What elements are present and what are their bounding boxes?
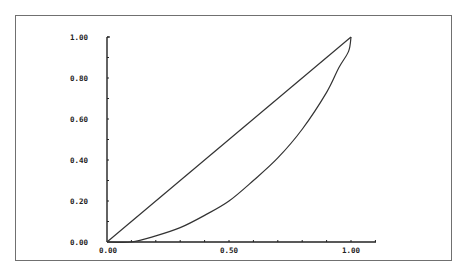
y-tick-label: 1.00 [70,33,89,42]
data-series [107,37,351,242]
y-tick-label: 0.20 [70,197,89,206]
y-tick-label: 0.80 [70,74,89,83]
x-tick-label: 0.50 [220,246,239,255]
x-axis-labels: 0.00 0.50 1.00 [99,246,361,255]
x-tick-label: 0.00 [99,246,118,255]
y-tick-label: 0.60 [70,115,89,124]
y-tick-label: 0.00 [70,238,89,247]
chart-plot: 0.00 0.20 0.40 0.60 0.80 1.00 0.00 0.50 … [0,0,466,275]
y-axis-labels: 0.00 0.20 0.40 0.60 0.80 1.00 [70,33,89,247]
x-tick-label: 1.00 [342,246,361,255]
y-tick-label: 0.40 [70,156,89,165]
line-of-equality-line [107,37,351,242]
axes [107,37,376,242]
